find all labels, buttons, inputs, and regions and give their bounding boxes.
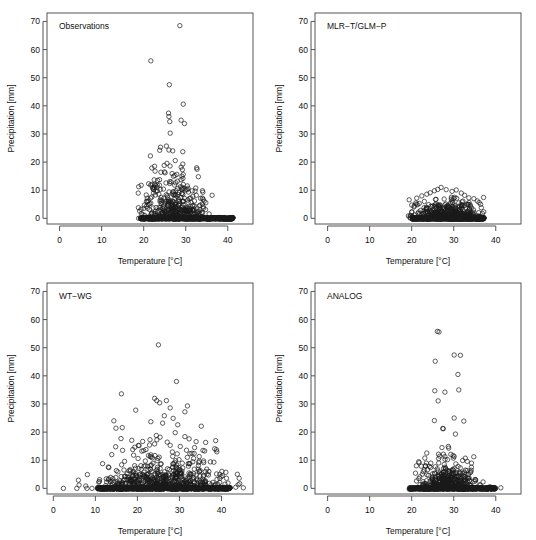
scatter-points [407, 329, 503, 491]
plot-area-wt-wg: 010203040506070010203040Temperature [°C]… [0, 270, 268, 540]
x-tick-label: 10 [365, 235, 375, 245]
plot-frame [47, 13, 253, 224]
y-tick-label: 0 [303, 213, 308, 223]
y-tick-label: 50 [299, 343, 309, 353]
y-tick-label: 20 [31, 157, 41, 167]
x-axis-title: Temperature [°C] [118, 256, 182, 266]
x-tick-label: 30 [175, 505, 185, 515]
y-tick-label: 70 [299, 286, 309, 296]
y-axis-title: Precipitation [mm] [274, 354, 284, 422]
panel-wt-wg: 010203040506070010203040Temperature [°C]… [0, 270, 268, 540]
x-tick-label: 10 [365, 505, 375, 515]
y-tick-label: 20 [299, 157, 309, 167]
x-tick-label: 0 [51, 505, 56, 515]
y-tick-label: 70 [31, 16, 41, 26]
x-tick-label: 0 [325, 235, 330, 245]
x-axis-title: Temperature [°C] [118, 526, 182, 536]
plot-area-mlr-t-glm-p: 010203040506070010203040Temperature [°C]… [268, 0, 536, 270]
figure-scatter-grid: 010203040506070010203040Temperature [°C]… [0, 0, 536, 540]
x-tick-label: 40 [223, 235, 233, 245]
panel-title: WT−WG [59, 291, 92, 301]
y-tick-label: 30 [299, 399, 309, 409]
plot-area-observations: 010203040506070010203040Temperature [°C]… [0, 0, 268, 270]
plot-frame [315, 283, 521, 494]
y-tick-label: 0 [303, 483, 308, 493]
panel-observations: 010203040506070010203040Temperature [°C]… [0, 0, 268, 270]
x-tick-label: 20 [407, 505, 417, 515]
x-tick-label: 40 [217, 505, 227, 515]
panel-mlr-t-glm-p: 010203040506070010203040Temperature [°C]… [268, 0, 536, 270]
y-tick-label: 20 [31, 427, 41, 437]
x-tick-label: 40 [491, 505, 501, 515]
x-tick-label: 30 [449, 235, 459, 245]
y-tick-label: 60 [299, 315, 309, 325]
x-tick-label: 30 [449, 505, 459, 515]
y-tick-label: 40 [299, 101, 309, 111]
y-tick-label: 10 [299, 455, 309, 465]
y-tick-label: 30 [299, 129, 309, 139]
y-tick-label: 30 [31, 129, 41, 139]
y-axis-title: Precipitation [mm] [274, 84, 284, 152]
y-tick-label: 50 [31, 73, 41, 83]
y-tick-label: 0 [35, 483, 40, 493]
y-tick-label: 60 [299, 45, 309, 55]
x-tick-label: 10 [97, 235, 107, 245]
panel-analog: 010203040506070010203040Temperature [°C]… [268, 270, 536, 540]
y-tick-label: 10 [299, 185, 309, 195]
panel-title: Observations [59, 21, 109, 31]
scatter-points [61, 343, 245, 492]
y-tick-label: 10 [31, 185, 41, 195]
y-tick-label: 70 [299, 16, 309, 26]
y-tick-label: 40 [31, 101, 41, 111]
y-tick-label: 60 [31, 315, 41, 325]
y-tick-label: 50 [299, 73, 309, 83]
y-tick-label: 50 [31, 343, 41, 353]
scatter-points [406, 185, 486, 221]
x-tick-label: 0 [57, 235, 62, 245]
plot-area-analog: 010203040506070010203040Temperature [°C]… [268, 270, 536, 540]
x-tick-label: 30 [181, 235, 191, 245]
y-tick-label: 60 [31, 45, 41, 55]
y-tick-label: 30 [31, 399, 41, 409]
y-tick-label: 40 [299, 371, 309, 381]
x-axis-title: Temperature [°C] [386, 256, 450, 266]
y-tick-label: 40 [31, 371, 41, 381]
y-axis-title: Precipitation [mm] [6, 354, 16, 422]
x-tick-label: 40 [491, 235, 501, 245]
plot-frame [47, 283, 253, 494]
x-axis-title: Temperature [°C] [386, 526, 450, 536]
x-tick-label: 20 [139, 235, 149, 245]
x-tick-label: 20 [133, 505, 143, 515]
x-tick-label: 10 [91, 505, 101, 515]
panel-title: ANALOG [327, 291, 362, 301]
y-tick-label: 20 [299, 427, 309, 437]
y-tick-label: 0 [35, 213, 40, 223]
plot-frame [315, 13, 521, 224]
y-tick-label: 10 [31, 455, 41, 465]
scatter-points [136, 23, 235, 221]
panel-title: MLR−T/GLM−P [327, 21, 387, 31]
x-tick-label: 20 [407, 235, 417, 245]
x-tick-label: 0 [325, 505, 330, 515]
y-tick-label: 70 [31, 286, 41, 296]
y-axis-title: Precipitation [mm] [6, 84, 16, 152]
